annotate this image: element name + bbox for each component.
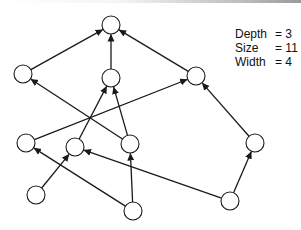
node-n4 bbox=[17, 134, 35, 152]
node-n1 bbox=[14, 65, 32, 83]
node-n0 bbox=[102, 16, 120, 34]
edge-n10-to-n5 bbox=[84, 150, 222, 198]
node-n10 bbox=[221, 192, 239, 210]
node-n8 bbox=[27, 186, 45, 204]
stat-size: Size= 11 bbox=[235, 41, 298, 55]
edge-n7-to-n3 bbox=[202, 83, 249, 136]
edges-layer bbox=[31, 30, 251, 207]
node-n3 bbox=[187, 67, 205, 85]
node-n7 bbox=[246, 134, 264, 152]
stat-width: Width= 4 bbox=[235, 55, 298, 69]
edge-n6-to-n1 bbox=[31, 79, 123, 139]
depth-value: = 3 bbox=[275, 27, 292, 41]
edge-n6-to-n2 bbox=[114, 87, 128, 135]
depth-label: Depth bbox=[235, 27, 275, 41]
edge-n9-to-n6 bbox=[130, 153, 132, 202]
edge-n10-to-n7 bbox=[234, 152, 252, 193]
node-n9 bbox=[124, 202, 142, 220]
node-n6 bbox=[121, 135, 139, 153]
node-n2 bbox=[102, 69, 120, 87]
edge-n3-to-n0 bbox=[119, 30, 188, 71]
edge-n1-to-n0 bbox=[31, 30, 103, 70]
width-value: = 4 bbox=[275, 55, 292, 69]
size-label: Size bbox=[235, 41, 275, 55]
node-n5 bbox=[66, 138, 84, 156]
nodes-layer bbox=[14, 16, 264, 220]
size-value: = 11 bbox=[275, 41, 298, 55]
edge-n9-to-n4 bbox=[34, 148, 125, 206]
edge-n8-to-n5 bbox=[42, 154, 69, 188]
stat-depth: Depth= 3 bbox=[235, 27, 298, 41]
width-label: Width bbox=[235, 55, 275, 69]
graph-stats-panel: Depth= 3 Size= 11 Width= 4 bbox=[235, 27, 298, 69]
